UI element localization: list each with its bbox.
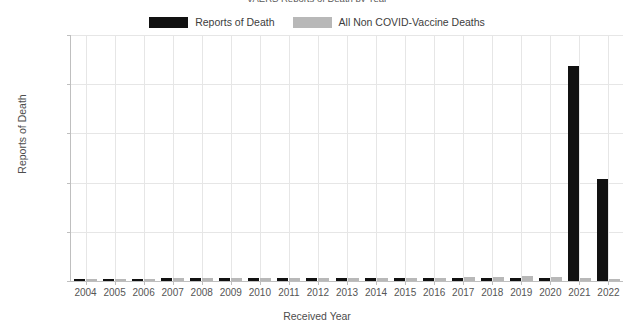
x-axis-title: Received Year <box>0 310 634 322</box>
gridline-vertical <box>289 35 290 281</box>
bar-reports-of-death-2004[interactable] <box>74 279 85 282</box>
bar-non-covid-vaccine-deaths-2021[interactable] <box>580 278 591 281</box>
bar-reports-of-death-2022[interactable] <box>597 179 608 281</box>
gridline-vertical <box>144 35 145 281</box>
x-axis-tick-mark <box>579 281 580 285</box>
gridline-vertical <box>231 35 232 281</box>
gridline-vertical <box>260 35 261 281</box>
bar-non-covid-vaccine-deaths-2015[interactable] <box>406 278 417 281</box>
legend-swatch-icon-non-covid-vaccine-deaths <box>293 17 332 28</box>
x-axis-tick-mark <box>521 281 522 285</box>
x-axis-tick-mark <box>347 281 348 285</box>
bar-reports-of-death-2012[interactable] <box>306 278 317 281</box>
gridline-vertical <box>579 35 580 281</box>
y-axis-tick-mark <box>67 84 71 85</box>
bar-reports-of-death-2006[interactable] <box>132 279 143 282</box>
chart-legend: Reports of Death All Non COVID-Vaccine D… <box>0 15 634 29</box>
x-axis-tick-mark <box>492 281 493 285</box>
x-axis-tick-mark <box>463 281 464 285</box>
x-axis-tick-mark <box>144 281 145 285</box>
bar-non-covid-vaccine-deaths-2018[interactable] <box>493 277 504 281</box>
bar-reports-of-death-2019[interactable] <box>510 278 521 281</box>
gridline-vertical <box>202 35 203 281</box>
legend-swatch-icon-reports-of-death <box>149 17 188 28</box>
x-axis-tick-mark <box>202 281 203 285</box>
gridline-vertical <box>521 35 522 281</box>
x-axis-tick-mark <box>434 281 435 285</box>
x-axis-tick-mark <box>550 281 551 285</box>
x-axis-tick-mark <box>608 281 609 285</box>
gridline-vertical <box>434 35 435 281</box>
plot-area: 0500010000150002000025000200420052006200… <box>70 35 623 281</box>
x-axis-tick-mark <box>405 281 406 285</box>
bar-non-covid-vaccine-deaths-2014[interactable] <box>377 278 388 281</box>
x-axis-tick-mark <box>318 281 319 285</box>
bar-reports-of-death-2007[interactable] <box>161 278 172 281</box>
y-axis-tick-mark <box>67 35 71 36</box>
x-axis-tick-mark <box>260 281 261 285</box>
gridline-vertical <box>318 35 319 281</box>
gridline-vertical <box>608 35 609 281</box>
gridline-vertical <box>463 35 464 281</box>
bar-non-covid-vaccine-deaths-2009[interactable] <box>231 278 242 281</box>
bar-reports-of-death-2005[interactable] <box>103 279 114 282</box>
x-axis-tick-mark <box>376 281 377 285</box>
bar-reports-of-death-2016[interactable] <box>423 278 434 281</box>
gridline-vertical <box>115 35 116 281</box>
bar-reports-of-death-2018[interactable] <box>481 278 492 281</box>
bar-non-covid-vaccine-deaths-2007[interactable] <box>173 278 184 281</box>
bar-non-covid-vaccine-deaths-2008[interactable] <box>202 278 213 281</box>
y-axis-tick-mark <box>67 133 71 134</box>
y-axis-tick-mark <box>67 281 71 282</box>
bar-reports-of-death-2020[interactable] <box>539 278 550 281</box>
gridline-vertical <box>376 35 377 281</box>
x-axis-tick-label: 2022 <box>588 287 628 298</box>
legend-item-non-covid-vaccine-deaths[interactable]: All Non COVID-Vaccine Deaths <box>293 17 485 28</box>
bar-reports-of-death-2021[interactable] <box>568 66 579 281</box>
bar-non-covid-vaccine-deaths-2012[interactable] <box>318 278 329 281</box>
x-axis-tick-mark <box>115 281 116 285</box>
y-axis-title: Reports of Death <box>16 54 28 214</box>
bar-reports-of-death-2010[interactable] <box>248 278 259 281</box>
chart-title: VAERS Reports of Death by Year <box>0 0 634 2</box>
gridline-vertical <box>86 35 87 281</box>
chart-container: VAERS Reports of Death by Year Reports o… <box>0 0 634 334</box>
bar-reports-of-death-2011[interactable] <box>277 278 288 281</box>
bar-non-covid-vaccine-deaths-2004[interactable] <box>86 279 97 282</box>
x-axis-tick-mark <box>289 281 290 285</box>
bar-reports-of-death-2017[interactable] <box>452 278 463 281</box>
bar-non-covid-vaccine-deaths-2011[interactable] <box>289 278 300 281</box>
gridline-vertical <box>550 35 551 281</box>
y-axis-tick-mark <box>67 183 71 184</box>
x-axis-tick-mark <box>173 281 174 285</box>
bar-non-covid-vaccine-deaths-2017[interactable] <box>464 277 475 281</box>
gridline-vertical <box>173 35 174 281</box>
bar-non-covid-vaccine-deaths-2020[interactable] <box>551 277 562 281</box>
y-axis-tick-mark <box>67 232 71 233</box>
bar-reports-of-death-2014[interactable] <box>365 278 376 281</box>
gridline-vertical <box>492 35 493 281</box>
bar-non-covid-vaccine-deaths-2010[interactable] <box>260 278 271 281</box>
bar-non-covid-vaccine-deaths-2005[interactable] <box>115 279 126 282</box>
legend-label-non-covid-vaccine-deaths: All Non COVID-Vaccine Deaths <box>339 17 485 28</box>
bar-reports-of-death-2009[interactable] <box>219 278 230 281</box>
bar-non-covid-vaccine-deaths-2019[interactable] <box>522 276 533 281</box>
legend-label-reports-of-death: Reports of Death <box>195 17 274 28</box>
x-axis-tick-mark <box>231 281 232 285</box>
x-axis-tick-mark <box>86 281 87 285</box>
bar-reports-of-death-2008[interactable] <box>190 278 201 281</box>
legend-item-reports-of-death[interactable]: Reports of Death <box>149 17 274 28</box>
gridline-vertical <box>405 35 406 281</box>
bar-non-covid-vaccine-deaths-2022[interactable] <box>609 279 620 282</box>
bar-non-covid-vaccine-deaths-2013[interactable] <box>348 278 359 281</box>
bar-reports-of-death-2013[interactable] <box>336 278 347 281</box>
bar-non-covid-vaccine-deaths-2006[interactable] <box>144 279 155 282</box>
bar-reports-of-death-2015[interactable] <box>394 278 405 281</box>
gridline-vertical <box>347 35 348 281</box>
bar-non-covid-vaccine-deaths-2016[interactable] <box>435 278 446 281</box>
